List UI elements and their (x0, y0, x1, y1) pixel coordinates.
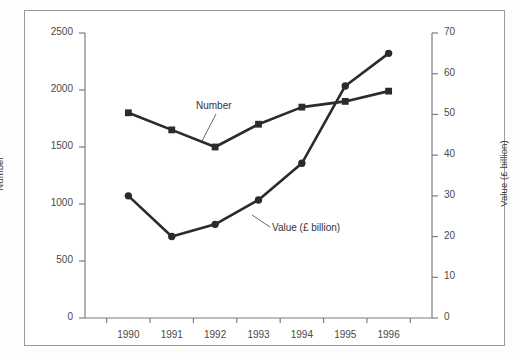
right-tick-label: 0 (444, 311, 488, 322)
annotation-leader-lines (201, 114, 270, 227)
right-tick-label: 20 (444, 230, 488, 241)
right-tick-label: 40 (444, 148, 488, 159)
left-tick-label: 1000 (29, 197, 73, 208)
left-tick-label: 1500 (29, 140, 73, 151)
left-axis-ticks (79, 33, 85, 318)
x-axis-ticks (107, 318, 411, 323)
left-tick-label: 2500 (29, 26, 73, 37)
right-tick-label: 70 (444, 26, 488, 37)
right-tick-label: 60 (444, 67, 488, 78)
right-axis-ticks (432, 33, 438, 318)
left-tick-label: 500 (29, 254, 73, 265)
x-tick-label: 1994 (279, 329, 325, 340)
x-tick-label: 1991 (149, 329, 195, 340)
x-tick-label: 1993 (236, 329, 282, 340)
data-series-layer (125, 50, 393, 241)
x-tick-label: 1992 (192, 329, 238, 340)
right-tick-label: 50 (444, 107, 488, 118)
right-tick-label: 10 (444, 270, 488, 281)
chart-plot-area (0, 0, 518, 359)
x-tick-label: 1996 (366, 329, 412, 340)
chart-figure: Number Value (£ billion) Number Value (£… (0, 0, 518, 359)
x-tick-label: 1990 (105, 329, 151, 340)
right-tick-label: 30 (444, 189, 488, 200)
axis-lines (85, 33, 432, 318)
left-tick-label: 0 (29, 311, 73, 322)
x-tick-label: 1995 (322, 329, 368, 340)
left-tick-label: 2000 (29, 83, 73, 94)
